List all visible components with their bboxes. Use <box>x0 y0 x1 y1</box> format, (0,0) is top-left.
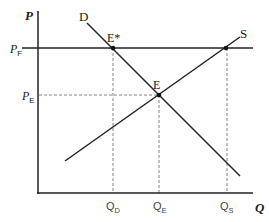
qd-label: QD <box>106 200 121 215</box>
demand-curve <box>87 23 240 176</box>
x-axis-label: Q <box>255 200 265 215</box>
demand-label: D <box>79 9 88 24</box>
floor-supply-point <box>224 46 229 51</box>
price-floor-diagram: P Q D S E* E PF PE QD QE QS <box>0 0 269 222</box>
floor-demand-point <box>111 46 116 51</box>
price-equilibrium-label: PE <box>21 89 35 105</box>
qs-label: QS <box>220 200 234 215</box>
equilibrium-point <box>157 93 162 98</box>
qe-label: QE <box>153 200 167 215</box>
supply-label: S <box>240 26 247 41</box>
y-axis-label: P <box>25 8 34 23</box>
price-floor-label: PF <box>9 42 22 58</box>
supply-curve <box>65 37 240 161</box>
floor-point-label: E* <box>107 31 120 45</box>
equilibrium-point-label: E <box>153 78 160 92</box>
